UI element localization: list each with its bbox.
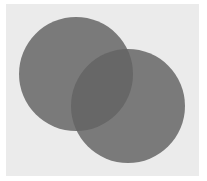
venn-diagram <box>0 0 207 181</box>
